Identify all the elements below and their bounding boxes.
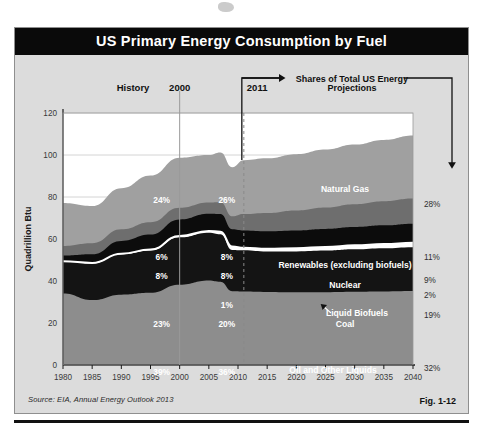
share-callout: 8%: [221, 271, 234, 281]
figure-titlebar: US Primary Energy Consumption by Fuel: [15, 28, 468, 55]
x-tick-label: 1990: [112, 373, 131, 382]
year-2011-label: 2011: [247, 82, 268, 93]
y-tick-label: 40: [48, 277, 58, 286]
x-tick-label: 2005: [200, 373, 219, 382]
y-tick-label: 60: [48, 235, 58, 244]
share-callout: 24%: [153, 195, 170, 205]
x-tick-label: 2015: [258, 373, 277, 382]
y-tick-label: 120: [43, 109, 57, 118]
x-tick-label: 2035: [375, 373, 394, 382]
bracket-title-line1: Shares of Total US Energy: [296, 74, 408, 84]
share-callout: 1%: [221, 300, 234, 310]
figure-page: US Primary Energy Consumption by Fuel 02…: [0, 0, 483, 437]
y-axis-title: Quadrillion Btu: [23, 207, 33, 272]
share-2040: 19%: [424, 311, 440, 320]
share-callout: 23%: [153, 319, 170, 329]
share-callout: 20%: [218, 319, 235, 329]
series-label: Natural Gas: [321, 184, 369, 194]
bracket-title-line2: Projections: [327, 83, 376, 93]
source-note: Source: EIA, Annual Energy Outlook 2013: [28, 395, 173, 404]
history-label: History: [117, 82, 150, 93]
series-label: Liquid Biofuels: [326, 308, 388, 318]
y-tick-label: 80: [48, 193, 58, 202]
x-tick-label: 1980: [54, 373, 73, 382]
figure-title: US Primary Energy Consumption by Fuel: [15, 28, 468, 55]
share-2040: 9%: [424, 276, 436, 285]
share-2040: 28%: [424, 200, 440, 209]
share-callout: 39%: [153, 367, 170, 377]
share-2040: 11%: [424, 253, 440, 262]
y-tick-label: 20: [48, 319, 58, 328]
plot-area: 0204060801001201980198519901995200020052…: [15, 55, 468, 415]
share-2040: 32%: [424, 364, 440, 373]
series-label: Nuclear: [329, 280, 361, 290]
share-callout: 36%: [218, 367, 235, 377]
share-callout: 8%: [221, 252, 234, 262]
energy-stacked-area-chart: 0204060801001201980198519901995200020052…: [15, 55, 470, 415]
series-label: Oil and Other Liquids: [289, 365, 377, 375]
y-tick-label: 0: [52, 361, 57, 370]
share-callout: 6%: [156, 252, 169, 262]
figure-number: Fig. 1-12: [419, 396, 456, 406]
page-speck: [218, 2, 234, 12]
share-callout: 26%: [218, 195, 235, 205]
x-tick-label: 1985: [83, 373, 102, 382]
share-callout: 8%: [156, 271, 169, 281]
series-label: Renewables (excluding biofuels): [278, 260, 411, 270]
x-tick-label: 2040: [404, 373, 423, 382]
year-2000-label: 2000: [169, 82, 190, 93]
figure-panel: US Primary Energy Consumption by Fuel 02…: [14, 27, 469, 414]
series-label: Coal: [336, 319, 355, 329]
x-tick-label: 2000: [171, 373, 190, 382]
y-tick-label: 100: [43, 151, 57, 160]
share-2040: 2%: [424, 291, 436, 300]
bottom-rule: [14, 420, 469, 423]
